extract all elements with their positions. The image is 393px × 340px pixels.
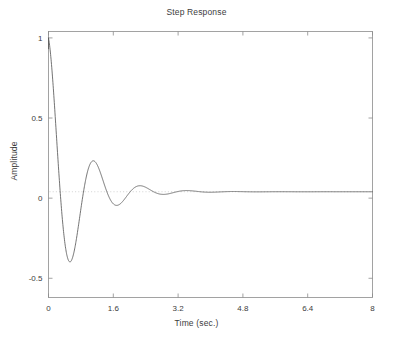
x-axis-label: Time (sec.)	[0, 318, 393, 328]
x-tick-label: 6.4	[302, 304, 313, 313]
x-tick-label: 8	[370, 304, 374, 313]
y-tick-label: 0	[9, 194, 43, 203]
x-tick-label: 4.8	[237, 304, 248, 313]
x-tick-label: 1.6	[108, 304, 119, 313]
x-tick-label: 0	[46, 304, 50, 313]
y-axis-label: Amplitude	[9, 131, 19, 191]
y-tick-label: 1	[9, 33, 43, 42]
figure-step-response: Step Response Amplitude Time (sec.) 01.6…	[0, 0, 393, 340]
y-tick-marks	[49, 38, 373, 278]
y-tick-label: 0.5	[9, 114, 43, 123]
page-title: Step Response	[0, 7, 393, 17]
plot-canvas	[0, 0, 393, 340]
data-line-step-response	[49, 38, 373, 262]
x-tick-label: 3.2	[173, 304, 184, 313]
y-tick-label: -0.5	[9, 274, 43, 283]
